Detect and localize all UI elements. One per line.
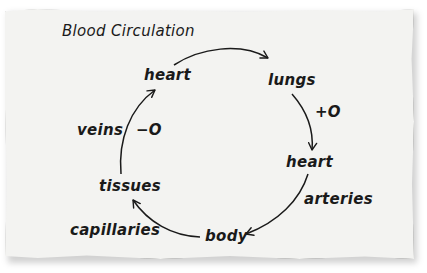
node-tissues: tissues bbox=[99, 179, 161, 194]
arrow-lungs-to-heart bbox=[292, 94, 312, 150]
node-lungs: lungs bbox=[268, 73, 316, 88]
edge-label-veins: veins bbox=[77, 123, 123, 138]
diagram-title: Blood Circulation bbox=[62, 24, 195, 39]
node-heart-right: heart bbox=[286, 155, 333, 170]
edge-label-arteries: arteries bbox=[304, 192, 373, 207]
edge-label-capillaries: capillaries bbox=[70, 223, 160, 238]
arrow-heart-to-lungs bbox=[174, 49, 268, 65]
node-body: body bbox=[205, 229, 248, 244]
node-heart-top: heart bbox=[144, 68, 191, 83]
edge-annotation-minus-oxygen: −O bbox=[136, 123, 162, 138]
arrow-heart-to-body bbox=[246, 174, 308, 234]
edge-label-plus-oxygen: +O bbox=[315, 105, 341, 120]
